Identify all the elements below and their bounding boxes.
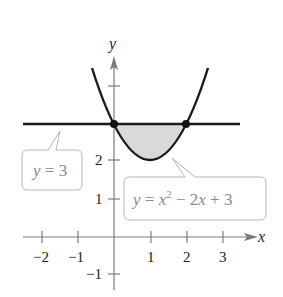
callout-lhs: y xyxy=(131,190,141,209)
callout-eq: = 3 xyxy=(41,161,68,180)
callout-parabola-label: y = x2 − 2x + 3 xyxy=(124,158,266,220)
y-tick-label: 1 xyxy=(95,191,103,207)
x-tick-label: −2 xyxy=(33,249,49,265)
y-tick-label: −1 xyxy=(86,266,102,282)
y-axis-label: y xyxy=(107,35,117,53)
svg-text:y = 3: y = 3 xyxy=(31,161,67,180)
callout-lhs: y xyxy=(31,161,41,180)
y-tick-label: 2 xyxy=(95,152,103,168)
callout-term: + 3 xyxy=(206,190,233,209)
x-tick-label: −1 xyxy=(68,249,84,265)
x-tick-label: 1 xyxy=(147,249,155,265)
svg-text:y = x2 − 2x + 3: y = x2 − 2x + 3 xyxy=(131,188,232,209)
callout-eq: = xyxy=(141,190,159,209)
intersection-point xyxy=(110,120,118,128)
x-tick-label: 3 xyxy=(219,249,227,265)
x-tick-label: 2 xyxy=(183,249,191,265)
callout-line-label: y = 3 xyxy=(22,131,82,190)
intersection-point xyxy=(182,120,190,128)
chart-canvas: −2 −1 1 2 3 −1 1 2 y x y = 3 y = x2 − 2x… xyxy=(0,0,283,297)
x-axis-label: x xyxy=(257,228,265,245)
callout-term: − 2 xyxy=(172,190,199,209)
